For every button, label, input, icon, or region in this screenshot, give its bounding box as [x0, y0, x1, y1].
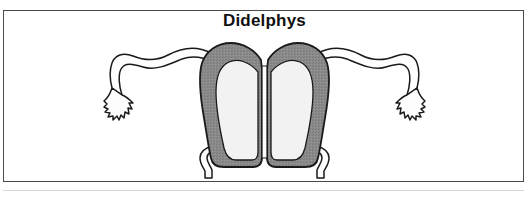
right-fimbriae: [396, 88, 425, 120]
left-uterine-horn: [200, 43, 262, 167]
left-fimbriae: [104, 88, 133, 120]
right-fallopian-tube: [316, 48, 419, 95]
uterus-didelphys-diagram: [0, 0, 529, 198]
midline-cleft: [262, 66, 267, 158]
right-uterine-horn: [267, 43, 329, 167]
figure-root: Didelphys: [0, 0, 529, 198]
left-fallopian-tube: [110, 48, 213, 95]
scan-artifact-rule: [3, 190, 524, 191]
